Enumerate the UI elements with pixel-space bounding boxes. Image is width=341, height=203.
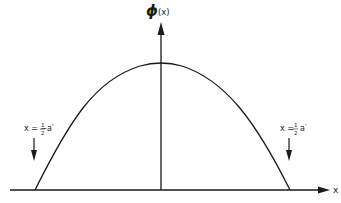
x-axis-label: x (333, 185, 339, 195)
right-marker-suffix: a′ (300, 124, 307, 133)
left-marker-arrowhead (31, 150, 37, 161)
left-marker-frac-num: 1 (41, 122, 45, 128)
right-marker-arrowhead (286, 150, 292, 161)
diagram-canvas: x ϕ (x) x = − 1 2 a′ x = 1 2 a′ (0, 0, 341, 203)
left-boundary-marker: x = − 1 2 a′ (24, 122, 54, 161)
y-axis-label-symbol: ϕ (146, 2, 158, 20)
right-marker-frac-num: 1 (294, 122, 298, 128)
y-axis-label-arg: (x) (158, 7, 170, 17)
left-marker-frac-den: 2 (41, 130, 45, 136)
x-axis-arrowhead (318, 187, 330, 194)
left-marker-suffix: a′ (47, 124, 54, 133)
phi-curve (35, 63, 290, 190)
y-axis-arrowhead (158, 22, 165, 35)
right-marker-frac-den: 2 (294, 130, 298, 136)
right-marker-prefix: x = (280, 124, 294, 133)
right-boundary-marker: x = 1 2 a′ (280, 122, 307, 161)
